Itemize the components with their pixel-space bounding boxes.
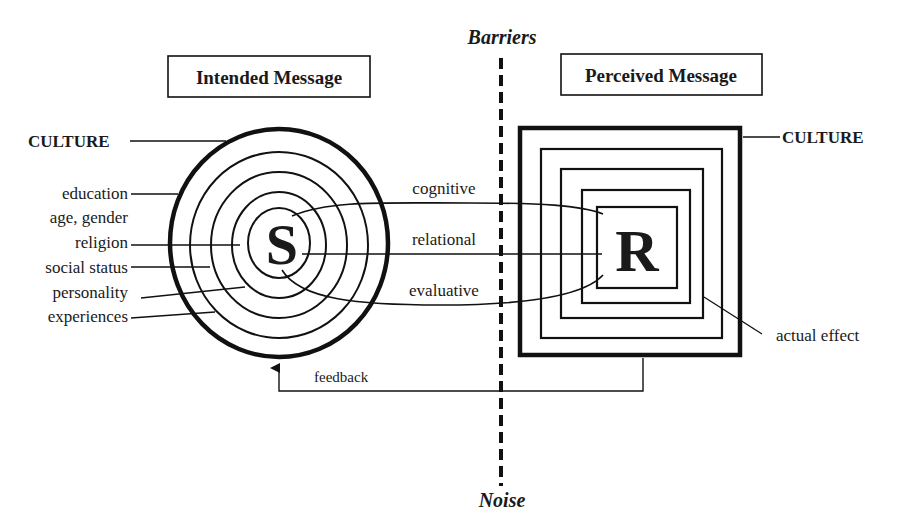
communication-diagram: Barriers Noise Intended Message Perceive… <box>0 0 909 532</box>
sender-culture-label: CULTURE <box>28 132 110 151</box>
layer-label-age-gender: age, gender <box>50 208 129 227</box>
layer-label-experiences: experiences <box>48 307 128 326</box>
layer-leader-experiences <box>131 312 215 318</box>
sender-letter: S <box>266 212 298 277</box>
layer-label-social-status: social status <box>45 258 128 277</box>
actual-effect-label: actual effect <box>776 326 859 345</box>
feedback-label: feedback <box>314 369 369 385</box>
noise-label: Noise <box>478 489 526 511</box>
intended-message-label: Intended Message <box>196 67 342 88</box>
channel-evaluative-label: evaluative <box>409 281 479 300</box>
layer-label-education: education <box>62 184 129 203</box>
channel-relational-label: relational <box>412 230 476 249</box>
layer-label-personality: personality <box>52 283 128 302</box>
receiver-culture-label: CULTURE <box>782 128 864 147</box>
layer-label-religion: religion <box>75 233 128 252</box>
channel-cognitive-label: cognitive <box>412 179 475 198</box>
barriers-label: Barriers <box>467 26 537 48</box>
actual-effect-leader <box>704 297 762 334</box>
perceived-message-label: Perceived Message <box>585 65 737 86</box>
receiver-letter: R <box>615 218 659 284</box>
